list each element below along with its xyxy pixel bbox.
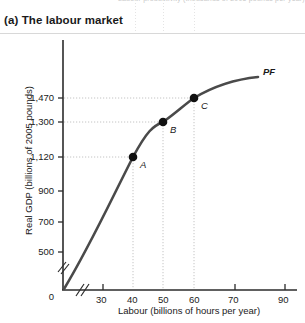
data-point-b <box>159 118 168 127</box>
x-tick-label-60: 60 <box>189 294 200 305</box>
production-function-curve <box>64 77 258 289</box>
chart-plot-area: 1,470 1,300 1,120 900 700 500 0 30 40 50… <box>0 0 305 323</box>
x-tick-label-30: 30 <box>96 294 107 305</box>
data-point-a <box>129 153 138 162</box>
point-label-b: B <box>170 124 176 135</box>
curve-label-pf: PF <box>263 66 275 77</box>
point-label-c: C <box>201 100 208 111</box>
x-tick-label-50: 50 <box>158 294 169 305</box>
data-point-c <box>190 94 199 103</box>
x-tick-label-40: 40 <box>127 294 138 305</box>
y-axis-title: Real GDP (billions of 2005 pounds) <box>23 71 34 251</box>
x-tick-label-90: 90 <box>278 294 289 305</box>
x-tick-label-70: 70 <box>228 294 239 305</box>
vertical-gridlines <box>133 98 194 289</box>
x-axis-title: Labour (billions of hours per year) <box>118 305 260 316</box>
point-label-a: A <box>140 159 146 170</box>
y-tick-label-0: 0 <box>8 291 54 302</box>
